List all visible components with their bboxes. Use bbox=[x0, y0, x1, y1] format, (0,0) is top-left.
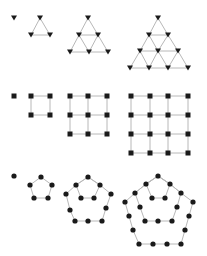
circle-node-icon bbox=[190, 199, 195, 204]
circle-node-icon bbox=[63, 191, 68, 196]
square-node-icon bbox=[86, 94, 91, 99]
circle-node-icon bbox=[85, 174, 90, 179]
square-node-icon bbox=[166, 94, 171, 99]
square-node-icon bbox=[148, 94, 153, 99]
circle-node-icon bbox=[72, 218, 77, 223]
edges-layer bbox=[30, 18, 193, 244]
square-node-icon bbox=[148, 113, 153, 118]
square-node-icon bbox=[105, 132, 110, 137]
triangle-edge bbox=[178, 51, 188, 68]
triangle-edge bbox=[140, 51, 149, 68]
triangle-edge bbox=[89, 35, 98, 52]
circle-node-icon bbox=[149, 195, 154, 200]
square-node-icon bbox=[148, 132, 153, 137]
triangle-edge bbox=[88, 18, 98, 35]
circle-node-icon bbox=[162, 195, 167, 200]
triangle-edge bbox=[79, 18, 88, 35]
circle-node-icon bbox=[136, 241, 141, 246]
circle-node-icon bbox=[31, 195, 36, 200]
circle-node-icon bbox=[178, 241, 183, 246]
triangle-edge bbox=[158, 18, 168, 35]
circle-node-icon bbox=[150, 241, 155, 246]
circle-node-icon bbox=[78, 195, 83, 200]
triangle-edge bbox=[40, 18, 50, 35]
circle-node-icon bbox=[155, 218, 160, 223]
circle-node-icon bbox=[155, 173, 160, 178]
square-node-icon bbox=[86, 132, 91, 137]
square-node-icon bbox=[186, 132, 191, 137]
square-node-icon bbox=[129, 151, 134, 156]
triangle-edge bbox=[70, 35, 79, 52]
triangle-edge bbox=[149, 18, 158, 35]
circle-node-icon bbox=[45, 195, 50, 200]
circle-node-icon bbox=[130, 227, 135, 232]
circle-node-icon bbox=[91, 195, 96, 200]
circle-node-icon bbox=[11, 173, 16, 178]
triangle-edge bbox=[79, 35, 89, 52]
square-node-icon bbox=[29, 94, 34, 99]
square-node-icon bbox=[86, 113, 91, 118]
circle-node-icon bbox=[67, 207, 72, 212]
circle-node-icon bbox=[99, 218, 104, 223]
triangle-node-icon bbox=[155, 16, 161, 21]
circle-node-icon bbox=[182, 227, 187, 232]
circle-node-icon bbox=[122, 199, 127, 204]
square-node-icon bbox=[68, 113, 73, 118]
circle-node-icon bbox=[73, 182, 78, 187]
circle-node-icon bbox=[108, 191, 113, 196]
circle-node-icon bbox=[169, 218, 174, 223]
square-node-icon bbox=[68, 94, 73, 99]
square-node-icon bbox=[129, 94, 134, 99]
circle-node-icon bbox=[27, 182, 32, 187]
circle-node-icon bbox=[186, 213, 191, 218]
triangle-node-icon bbox=[37, 16, 43, 21]
triangle-node-icon bbox=[11, 16, 17, 21]
square-node-icon bbox=[12, 94, 17, 99]
circle-node-icon bbox=[143, 181, 148, 186]
square-node-icon bbox=[129, 132, 134, 137]
circle-node-icon bbox=[97, 182, 102, 187]
circle-node-icon bbox=[178, 190, 183, 195]
square-node-icon bbox=[68, 132, 73, 137]
square-node-icon bbox=[186, 113, 191, 118]
circle-node-icon bbox=[38, 174, 43, 179]
triangle-edge bbox=[149, 51, 158, 68]
triangle-node-icon bbox=[85, 16, 91, 21]
square-node-icon bbox=[48, 113, 53, 118]
square-node-icon bbox=[29, 113, 34, 118]
triangle-edge bbox=[158, 51, 168, 68]
circle-node-icon bbox=[49, 182, 54, 187]
square-node-icon bbox=[166, 151, 171, 156]
circle-node-icon bbox=[164, 241, 169, 246]
circle-node-icon bbox=[85, 218, 90, 223]
square-node-icon bbox=[129, 113, 134, 118]
circle-node-icon bbox=[137, 204, 142, 209]
circle-node-icon bbox=[126, 213, 131, 218]
triangle-edge bbox=[31, 18, 40, 35]
triangle-edge bbox=[98, 35, 108, 52]
circle-node-icon bbox=[103, 205, 108, 210]
square-node-icon bbox=[48, 94, 53, 99]
circle-node-icon bbox=[167, 181, 172, 186]
square-node-icon bbox=[105, 94, 110, 99]
square-node-icon bbox=[186, 94, 191, 99]
square-node-icon bbox=[186, 151, 191, 156]
circle-node-icon bbox=[132, 190, 137, 195]
square-node-icon bbox=[148, 151, 153, 156]
triangle-edge bbox=[130, 51, 140, 68]
figurate-numbers-diagram bbox=[0, 0, 207, 256]
square-node-icon bbox=[166, 132, 171, 137]
triangle-edge bbox=[168, 51, 178, 68]
circle-node-icon bbox=[142, 218, 147, 223]
square-node-icon bbox=[105, 113, 110, 118]
circle-node-icon bbox=[174, 204, 179, 209]
square-node-icon bbox=[166, 113, 171, 118]
